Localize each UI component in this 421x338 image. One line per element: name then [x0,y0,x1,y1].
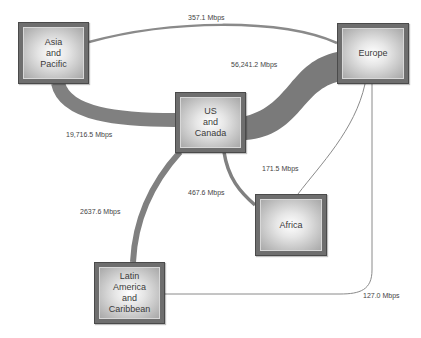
edge-us-latam [133,152,180,262]
edge-us-africa [224,152,255,205]
edge-label-asia-us: 19,716.5 Mbps [66,131,112,138]
node-label: Asia and Pacific [40,37,67,70]
node-label: Europe [358,48,387,59]
node-label: Latin America and Caribbean [109,271,151,315]
node-europe[interactable]: Europe [337,23,409,84]
node-africa[interactable]: Africa [255,194,327,256]
node-label: US and Canada [195,106,227,139]
edge-label-europe-latam: 127.0 Mbps [363,292,400,299]
edge-label-us-africa: 467.6 Mbps [188,189,225,196]
edge-asia-us [58,83,175,120]
node-asia-and-pacific[interactable]: Asia and Pacific [18,22,89,84]
edge-label-us-latam: 2637.6 Mbps [80,208,120,215]
node-label: Africa [279,220,302,231]
node-us-and-canada[interactable]: US and Canada [175,92,246,153]
edge-asia-europe [89,25,337,43]
node-latin-america-and-caribbean[interactable]: Latin America and Caribbean [94,262,165,324]
edge-label-europe-africa: 171.5 Mbps [262,165,299,172]
edge-label-us-europe: 56,241.2 Mbps [231,61,277,68]
edge-label-asia-europe: 357.1 Mbps [188,14,225,21]
